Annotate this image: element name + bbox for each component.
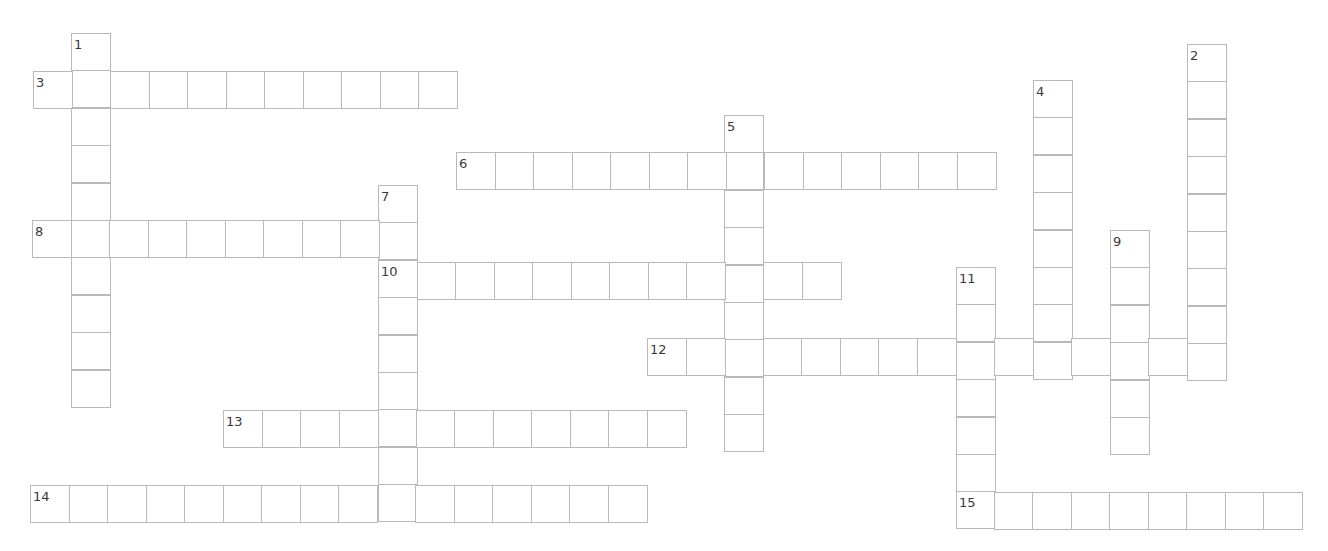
- crossword-cell[interactable]: [1187, 306, 1227, 344]
- crossword-cell[interactable]: [1110, 267, 1150, 305]
- crossword-cell[interactable]: [71, 183, 111, 221]
- crossword-cell[interactable]: [686, 338, 726, 376]
- crossword-cell[interactable]: [803, 152, 843, 190]
- letter-input[interactable]: [456, 263, 494, 299]
- crossword-cell[interactable]: [110, 71, 150, 109]
- letter-input[interactable]: [957, 268, 995, 304]
- letter-input[interactable]: [418, 263, 456, 299]
- letter-input[interactable]: [72, 34, 110, 70]
- letter-input[interactable]: [1188, 344, 1226, 380]
- letter-input[interactable]: [31, 486, 69, 522]
- letter-input[interactable]: [1187, 493, 1225, 529]
- crossword-cell[interactable]: [339, 410, 379, 448]
- crossword-cell[interactable]: [455, 262, 495, 300]
- letter-input[interactable]: [224, 486, 262, 522]
- crossword-cell[interactable]: 13: [223, 410, 263, 448]
- crossword-cell[interactable]: [610, 152, 650, 190]
- letter-input[interactable]: [570, 486, 608, 522]
- letter-input[interactable]: [188, 72, 226, 108]
- letter-input[interactable]: [725, 116, 763, 152]
- crossword-cell[interactable]: [184, 485, 224, 523]
- crossword-cell[interactable]: [226, 71, 266, 109]
- crossword-cell[interactable]: [1033, 230, 1073, 268]
- crossword-cell[interactable]: [608, 485, 648, 523]
- letter-input[interactable]: [72, 71, 110, 107]
- letter-input[interactable]: [495, 263, 533, 299]
- crossword-cell[interactable]: [1187, 343, 1227, 381]
- letter-input[interactable]: [72, 296, 110, 332]
- letter-input[interactable]: [72, 258, 110, 294]
- letter-input[interactable]: [765, 153, 803, 189]
- letter-input[interactable]: [803, 263, 841, 299]
- crossword-cell[interactable]: [340, 220, 380, 258]
- letter-input[interactable]: [1226, 493, 1264, 529]
- crossword-cell[interactable]: [378, 335, 418, 373]
- crossword-cell[interactable]: [492, 485, 532, 523]
- letter-input[interactable]: [379, 223, 417, 259]
- letter-input[interactable]: [1111, 381, 1149, 417]
- letter-input[interactable]: [1264, 493, 1302, 529]
- letter-input[interactable]: [841, 339, 879, 375]
- letter-input[interactable]: [725, 378, 763, 414]
- letter-input[interactable]: [918, 339, 956, 375]
- crossword-cell[interactable]: [648, 262, 688, 300]
- crossword-cell[interactable]: [416, 410, 456, 448]
- crossword-cell[interactable]: [225, 220, 265, 258]
- crossword-cell[interactable]: [1187, 156, 1227, 194]
- letter-input[interactable]: [1034, 343, 1072, 379]
- crossword-cell[interactable]: [724, 414, 764, 452]
- letter-input[interactable]: [455, 486, 493, 522]
- letter-input[interactable]: [110, 221, 148, 257]
- crossword-cell[interactable]: [801, 338, 841, 376]
- crossword-cell[interactable]: [1148, 492, 1188, 530]
- crossword-cell[interactable]: [956, 417, 996, 455]
- letter-input[interactable]: [379, 448, 417, 484]
- letter-input[interactable]: [688, 153, 726, 189]
- crossword-cell[interactable]: [1071, 338, 1111, 376]
- letter-input[interactable]: [72, 146, 110, 182]
- crossword-cell[interactable]: [1225, 492, 1265, 530]
- letter-input[interactable]: [1188, 269, 1226, 305]
- crossword-cell[interactable]: [454, 410, 494, 448]
- letter-input[interactable]: [532, 411, 570, 447]
- letter-input[interactable]: [571, 411, 609, 447]
- letter-input[interactable]: [379, 261, 417, 297]
- letter-input[interactable]: [1034, 156, 1072, 192]
- crossword-cell[interactable]: [263, 220, 303, 258]
- crossword-cell[interactable]: [494, 262, 534, 300]
- crossword-cell[interactable]: [609, 262, 649, 300]
- letter-input[interactable]: [455, 411, 493, 447]
- crossword-cell[interactable]: [1033, 342, 1073, 380]
- crossword-cell[interactable]: [994, 338, 1034, 376]
- crossword-cell[interactable]: [1033, 192, 1073, 230]
- crossword-cell[interactable]: [956, 454, 996, 492]
- crossword-cell[interactable]: [1071, 492, 1111, 530]
- crossword-cell[interactable]: [572, 152, 612, 190]
- letter-input[interactable]: [494, 411, 532, 447]
- crossword-cell[interactable]: 11: [956, 267, 996, 305]
- crossword-cell[interactable]: [649, 152, 689, 190]
- letter-input[interactable]: [1111, 418, 1149, 454]
- crossword-cell[interactable]: [1110, 380, 1150, 418]
- letter-input[interactable]: [1111, 231, 1149, 267]
- letter-input[interactable]: [957, 455, 995, 491]
- letter-input[interactable]: [340, 411, 378, 447]
- letter-input[interactable]: [957, 343, 995, 379]
- letter-input[interactable]: [379, 336, 417, 372]
- letter-input[interactable]: [725, 153, 763, 189]
- letter-input[interactable]: [339, 486, 377, 522]
- crossword-cell[interactable]: 4: [1033, 80, 1073, 118]
- letter-input[interactable]: [1034, 268, 1072, 304]
- crossword-cell[interactable]: [378, 447, 418, 485]
- crossword-cell[interactable]: 10: [378, 260, 418, 298]
- crossword-cell[interactable]: [1110, 305, 1150, 343]
- crossword-cell[interactable]: [148, 220, 188, 258]
- crossword-cell[interactable]: [71, 70, 111, 108]
- crossword-cell[interactable]: 12: [647, 338, 687, 376]
- letter-input[interactable]: [1072, 339, 1110, 375]
- crossword-cell[interactable]: [454, 485, 494, 523]
- letter-input[interactable]: [725, 340, 763, 376]
- crossword-cell[interactable]: 9: [1110, 230, 1150, 268]
- crossword-cell[interactable]: [1033, 304, 1073, 342]
- crossword-cell[interactable]: [107, 485, 147, 523]
